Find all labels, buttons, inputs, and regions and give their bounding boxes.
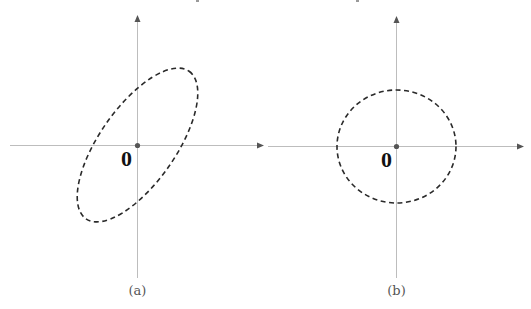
figure-canvas: 0 (a) 0 (b) <box>0 0 531 309</box>
panel-b: 0 (b) <box>268 16 524 298</box>
cropped-text-fragment <box>356 0 359 2</box>
origin-point <box>135 143 140 148</box>
cropped-text-fragment <box>196 0 199 2</box>
origin-point <box>394 144 399 149</box>
panel-a: 0 (a) <box>10 15 264 298</box>
origin-label: 0 <box>121 146 132 171</box>
origin-label: 0 <box>381 147 392 172</box>
panel-caption-a: (a) <box>129 283 147 298</box>
y-axis-arrow-icon <box>394 16 400 23</box>
x-axis-arrow-icon <box>257 143 264 149</box>
panel-caption-b: (b) <box>387 283 405 298</box>
x-axis-arrow-icon <box>517 144 524 150</box>
y-axis-arrow-icon <box>135 15 141 22</box>
